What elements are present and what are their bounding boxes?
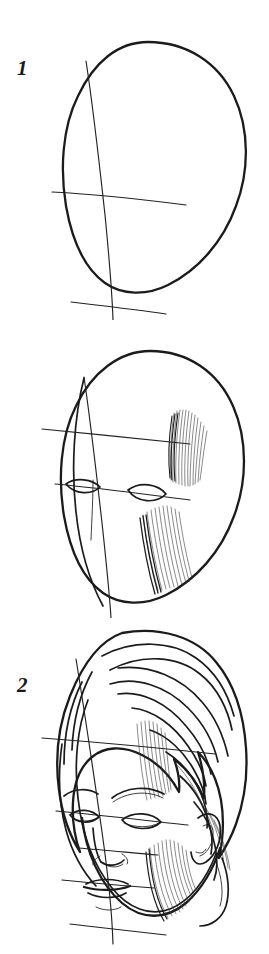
eye-line-3	[56, 811, 188, 825]
tutorial-sheet: 1 2	[0, 0, 269, 954]
chin-line-3	[70, 924, 166, 935]
vertical-center-line-2	[84, 377, 111, 618]
nose-3	[93, 828, 128, 867]
eye-line-1	[52, 192, 186, 205]
head-outline-2	[61, 351, 244, 603]
brow-shading-2	[171, 410, 207, 486]
step-2-drawing	[0, 318, 269, 618]
left-eye-2	[66, 480, 100, 493]
head-outline-1	[63, 42, 246, 293]
brow-line-3	[42, 738, 215, 754]
step-panel-1: 1	[0, 0, 269, 320]
step-1-drawing	[0, 0, 269, 320]
vertical-center-line-1	[86, 61, 113, 320]
step-3-drawing	[0, 612, 269, 954]
step-panel-2: 2	[0, 318, 269, 618]
hair-tail-3	[200, 858, 228, 926]
vertical-center-line-3	[76, 659, 113, 944]
hair-outline-3	[57, 631, 246, 858]
chin-line-1	[71, 302, 166, 314]
nose-line-2	[91, 480, 93, 540]
step-panel-3: 3	[0, 612, 269, 954]
